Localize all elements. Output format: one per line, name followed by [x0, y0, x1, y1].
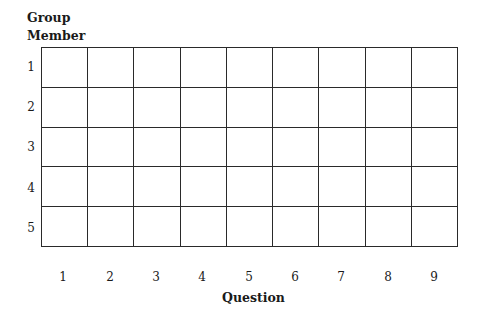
col-label-1: 1 [53, 270, 73, 284]
col-label-4: 4 [192, 270, 212, 284]
grid-cell[interactable] [412, 167, 458, 207]
grid-cell[interactable] [42, 128, 88, 168]
grid-cell[interactable] [412, 48, 458, 88]
grid-cell[interactable] [42, 48, 88, 88]
col-label-7: 7 [331, 270, 351, 284]
grid-cell[interactable] [319, 128, 365, 168]
row-label-5: 5 [26, 221, 36, 235]
grid-cell[interactable] [42, 88, 88, 128]
grid-cell[interactable] [227, 48, 273, 88]
col-label-9: 9 [424, 270, 444, 284]
grid-cell[interactable] [366, 88, 412, 128]
col-label-6: 6 [285, 270, 305, 284]
grid-cell[interactable] [181, 128, 227, 168]
grid-cell[interactable] [88, 48, 134, 88]
grid-cell[interactable] [181, 88, 227, 128]
grid-cell[interactable] [134, 128, 180, 168]
grid-cell[interactable] [319, 207, 365, 247]
grid-cell[interactable] [319, 167, 365, 207]
grid-cell[interactable] [42, 207, 88, 247]
grid-cell[interactable] [366, 207, 412, 247]
row-label-3: 3 [26, 140, 36, 154]
grid-cell[interactable] [42, 167, 88, 207]
grid-cell[interactable] [181, 207, 227, 247]
grid-cell[interactable] [412, 128, 458, 168]
grid-cell[interactable] [273, 48, 319, 88]
grid-cell[interactable] [366, 48, 412, 88]
grid-cell[interactable] [412, 88, 458, 128]
col-label-2: 2 [100, 270, 120, 284]
grid-cell[interactable] [319, 88, 365, 128]
grid-cell[interactable] [273, 167, 319, 207]
grid-cell[interactable] [88, 88, 134, 128]
grid-cell[interactable] [366, 167, 412, 207]
row-label-2: 2 [26, 100, 36, 114]
grid-cell[interactable] [134, 48, 180, 88]
response-grid [41, 47, 458, 247]
col-label-5: 5 [239, 270, 259, 284]
grid-cell[interactable] [88, 207, 134, 247]
row-label-4: 4 [26, 181, 36, 195]
grid-cell[interactable] [88, 128, 134, 168]
grid-cell[interactable] [134, 167, 180, 207]
grid-cell[interactable] [366, 128, 412, 168]
grid-cell[interactable] [227, 128, 273, 168]
grid-cell[interactable] [227, 88, 273, 128]
group-label: Group [27, 10, 70, 25]
grid-cell[interactable] [134, 88, 180, 128]
row-label-1: 1 [26, 60, 36, 74]
grid-cell[interactable] [319, 48, 365, 88]
grid-cell[interactable] [227, 167, 273, 207]
grid-cell[interactable] [273, 88, 319, 128]
grid-cell[interactable] [273, 207, 319, 247]
grid-cell[interactable] [181, 48, 227, 88]
col-label-8: 8 [378, 270, 398, 284]
grid-cell[interactable] [181, 167, 227, 207]
grid-cell[interactable] [227, 207, 273, 247]
grid-cell[interactable] [412, 207, 458, 247]
grid-cell[interactable] [134, 207, 180, 247]
grid-cell[interactable] [273, 128, 319, 168]
member-label: Member [27, 28, 85, 43]
col-label-3: 3 [146, 270, 166, 284]
question-axis-title: Question [222, 290, 285, 305]
grid-cell[interactable] [88, 167, 134, 207]
